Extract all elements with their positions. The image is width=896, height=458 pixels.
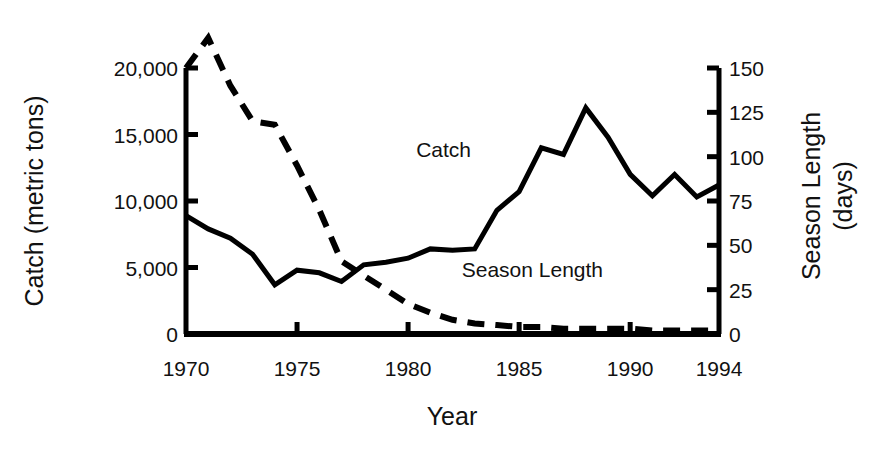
right-tick-label: 125 xyxy=(729,101,764,124)
left-axis-tick-labels: 05,00010,00015,00020,000 xyxy=(114,57,178,346)
right-tick-label: 0 xyxy=(729,323,741,346)
left-tick-label: 15,000 xyxy=(114,124,178,147)
x-tick-label: 1975 xyxy=(274,357,321,380)
axes-frame xyxy=(184,68,721,334)
x-tick-label: 1985 xyxy=(496,357,543,380)
chart-figure: 05,00010,00015,00020,000 025507510012515… xyxy=(0,0,896,458)
right-tick-label: 25 xyxy=(729,279,752,302)
x-axis-tick-labels: 197019751980198519901994 xyxy=(163,357,743,380)
x-tick-label: 1994 xyxy=(696,357,743,380)
right-tick-label: 150 xyxy=(729,57,764,80)
season-length-series-annotation: Season Length xyxy=(462,258,603,281)
right-tick-label: 50 xyxy=(729,234,752,257)
right-axis-tick-labels: 0255075100125150 xyxy=(729,57,764,346)
y-axis-title: Catch (metric tons) xyxy=(20,95,48,306)
x-axis-title: Year xyxy=(427,402,478,430)
left-tick-label: 0 xyxy=(166,323,178,346)
catch-series-annotation: Catch xyxy=(416,138,471,161)
left-tick-label: 10,000 xyxy=(114,190,178,213)
right-tick-label: 75 xyxy=(729,190,752,213)
catch-series-line xyxy=(186,108,719,285)
y2-axis-title-line2: (days) xyxy=(829,161,857,230)
x-tick-label: 1970 xyxy=(163,357,210,380)
x-tick-label: 1990 xyxy=(607,357,654,380)
left-tick-label: 5,000 xyxy=(125,257,178,280)
right-tick-label: 100 xyxy=(729,146,764,169)
left-tick-label: 20,000 xyxy=(114,57,178,80)
catch-and-season-length-line-chart: 05,00010,00015,00020,000 025507510012515… xyxy=(0,0,896,458)
x-tick-label: 1980 xyxy=(385,357,432,380)
y2-axis-title-line1: Season Length xyxy=(797,112,825,280)
